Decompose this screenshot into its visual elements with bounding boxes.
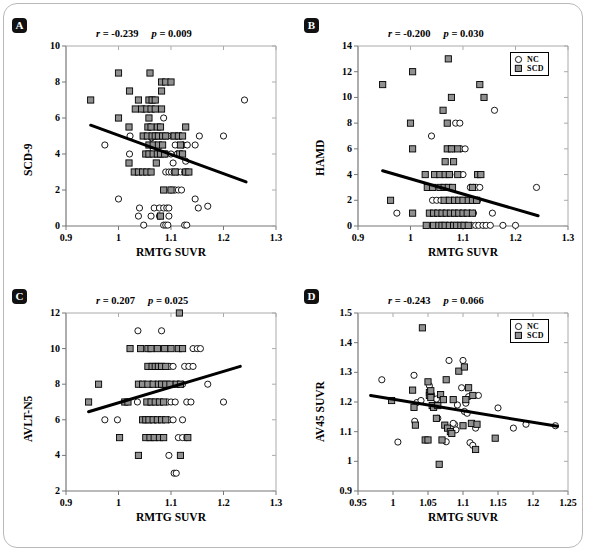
legend-label: NC (527, 322, 539, 331)
data-point-scd (158, 88, 164, 94)
data-point-scd (465, 222, 471, 228)
data-point-scd (176, 310, 182, 316)
data-point-nc (220, 399, 226, 405)
data-point-nc (197, 346, 203, 352)
y-tick-label: 1.1 (322, 426, 352, 437)
data-point-nc (205, 381, 211, 387)
data-point-scd (163, 133, 169, 139)
x-tick-label: 1.1 (443, 232, 483, 243)
data-point-scd (157, 124, 163, 130)
data-point-scd (179, 133, 185, 139)
legend-label: NC (527, 55, 539, 64)
data-point-scd (154, 346, 160, 352)
data-point-scd (473, 446, 479, 452)
data-point-scd (148, 169, 154, 175)
data-point-scd (455, 171, 461, 177)
x-axis-title: RMTG SUVR (66, 511, 276, 523)
x-tick-label: 1 (373, 497, 413, 508)
x-axis-title: RMTG SUVR (358, 511, 568, 523)
data-point-nc (491, 107, 497, 113)
x-tick-label: 1.15 (478, 497, 518, 508)
data-point-nc (170, 417, 176, 423)
data-point-scd (463, 397, 469, 403)
data-point-scd (148, 346, 154, 352)
data-point-scd (448, 94, 454, 100)
data-point-scd (425, 437, 431, 443)
data-point-scd (160, 142, 166, 148)
data-point-scd (186, 169, 192, 175)
data-point-scd (157, 213, 163, 219)
y-tick-label: 1 (322, 455, 352, 466)
data-point-scd (126, 124, 132, 130)
data-point-scd (127, 346, 133, 352)
data-point-scd (477, 81, 483, 87)
x-tick-label: 1.3 (548, 232, 588, 243)
x-tick-label: 0.9 (46, 497, 86, 508)
data-point-scd (172, 169, 178, 175)
data-point-scd (419, 325, 425, 331)
data-point-nc (172, 399, 178, 405)
y-tick-label: 8 (30, 378, 60, 389)
data-point-nc (411, 372, 417, 378)
data-point-nc (446, 357, 452, 363)
data-point-scd (410, 210, 416, 216)
y-tick-label: 10 (30, 343, 60, 354)
data-point-scd (439, 437, 445, 443)
y-tick-label: 6 (30, 112, 60, 123)
data-point-scd (469, 210, 475, 216)
legend-item-scd: SCD (514, 331, 544, 340)
x-axis-title: RMTG SUVR (358, 246, 568, 258)
data-point-scd (177, 452, 183, 458)
x-axis-title: RMTG SUVR (66, 246, 276, 258)
y-tick-label: 10 (30, 40, 60, 51)
data-point-nc (148, 213, 154, 219)
x-tick-label: 1 (391, 232, 431, 243)
y-tick-label: 10 (322, 91, 352, 102)
x-tick-label: 1.05 (408, 497, 448, 508)
data-point-scd (411, 404, 417, 410)
data-point-scd (168, 346, 174, 352)
y-tick-label: 12 (322, 66, 352, 77)
data-point-nc (178, 187, 184, 193)
data-point-scd (436, 461, 442, 467)
data-point-scd (492, 435, 498, 441)
panel-b: Br = -0.200 p = 0.0300.911.11.21.3024681… (300, 14, 587, 279)
data-point-nc (158, 328, 164, 334)
data-point-scd (115, 70, 121, 76)
data-point-nc (495, 405, 501, 411)
data-point-nc (166, 452, 172, 458)
data-point-scd (162, 346, 168, 352)
y-tick-label: 14 (322, 40, 352, 51)
data-point-scd (428, 394, 434, 400)
y-tick-label: 0 (30, 220, 60, 231)
x-tick-label: 1.3 (256, 232, 296, 243)
x-tick-label: 0.9 (46, 232, 86, 243)
y-tick-label: 8 (322, 117, 352, 128)
x-tick-label: 1.1 (151, 232, 191, 243)
legend: NCSCD (510, 319, 549, 343)
data-point-nc (477, 184, 483, 190)
data-point-nc (192, 142, 198, 148)
data-point-scd (428, 388, 434, 394)
legend-label: SCD (527, 331, 544, 340)
data-point-scd (137, 346, 143, 352)
data-point-nc (195, 205, 201, 211)
data-point-nc (173, 470, 179, 476)
data-point-nc (457, 120, 463, 126)
data-point-nc (459, 385, 465, 391)
x-tick-label: 1.2 (204, 232, 244, 243)
data-point-nc (179, 417, 185, 423)
data-point-scd (410, 146, 416, 152)
data-point-nc (102, 142, 108, 148)
data-point-scd (126, 88, 132, 94)
legend-item-scd: SCD (514, 64, 544, 73)
data-point-scd (183, 124, 189, 130)
data-point-scd (466, 385, 472, 391)
y-tick-label: 4 (30, 148, 60, 159)
data-point-nc (196, 133, 202, 139)
data-point-nc (126, 151, 132, 157)
data-point-scd (433, 415, 439, 421)
data-point-scd (422, 171, 428, 177)
circle-marker-icon (514, 55, 523, 64)
data-point-scd (153, 160, 159, 166)
